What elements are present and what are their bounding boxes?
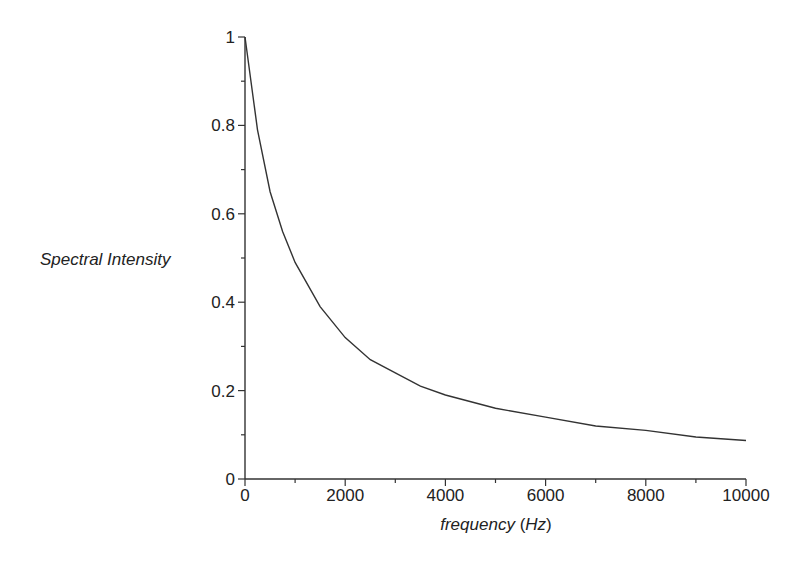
x-ticks: 0200040006000800010000: [240, 479, 769, 505]
y-tick-label: 1: [226, 28, 235, 47]
y-tick-label: 0.4: [211, 293, 235, 312]
x-tick-label: 0: [240, 486, 249, 505]
x-axis-title-main: frequency: [440, 515, 516, 534]
y-axis-title: Spectral Intensity: [40, 250, 172, 269]
x-tick-label: 10000: [722, 486, 769, 505]
y-ticks: 00.20.40.60.81: [211, 28, 245, 489]
y-tick-label: 0.6: [211, 205, 235, 224]
data-line: [245, 37, 746, 441]
x-tick-label: 6000: [527, 486, 565, 505]
chart: 0200040006000800010000 00.20.40.60.81 Sp…: [0, 0, 809, 581]
x-tick-label: 8000: [627, 486, 665, 505]
y-tick-label: 0: [226, 470, 235, 489]
x-tick-label: 4000: [426, 486, 464, 505]
x-tick-label: 2000: [326, 486, 364, 505]
x-axis-title-unit: Hz: [525, 515, 546, 534]
y-tick-label: 0.2: [211, 382, 235, 401]
y-tick-label: 0.8: [211, 116, 235, 135]
x-axis-title: frequency (Hz): [440, 515, 552, 534]
